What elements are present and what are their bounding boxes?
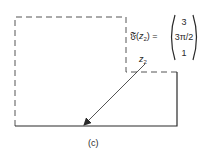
solid-outline — [15, 72, 177, 126]
arrow — [84, 64, 145, 125]
figure-caption: (c) — [88, 139, 99, 148]
function-label: 𝔉(z2) = — [130, 31, 158, 42]
vector-entry-2: 3π/2 — [172, 33, 196, 42]
point-label-z2: z2 — [139, 55, 147, 65]
figure: 𝔉(z2) = 3 3π/2 1 z2 (c) — [0, 0, 203, 150]
vector-entry-1: 3 — [172, 18, 196, 27]
vector-entry-3: 1 — [172, 49, 196, 58]
